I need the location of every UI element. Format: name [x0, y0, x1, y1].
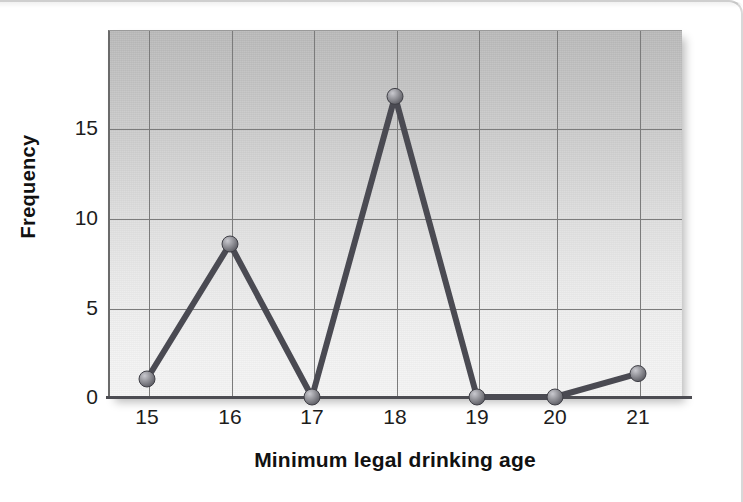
x-tick-label-20: 20: [525, 406, 585, 427]
x-tick-label-15: 15: [117, 406, 177, 427]
y-axis-title: Frequency: [17, 97, 40, 277]
x-tick-label-19: 19: [447, 406, 507, 427]
x-tick-label-group: 15 16 17 18 19 20 21: [0, 0, 743, 502]
x-tick-label-21: 21: [608, 406, 668, 427]
x-tick-label-18: 18: [365, 406, 425, 427]
x-tick-label-16: 16: [200, 406, 260, 427]
page-canvas: 15 10 5 0 15 16 17 18 19 20 21 Frequency…: [0, 0, 743, 502]
x-axis-title: Minimum legal drinking age: [108, 448, 682, 472]
x-tick-label-17: 17: [282, 406, 342, 427]
frequency-polygon-figure: 15 10 5 0 15 16 17 18 19 20 21 Frequency…: [0, 0, 743, 502]
